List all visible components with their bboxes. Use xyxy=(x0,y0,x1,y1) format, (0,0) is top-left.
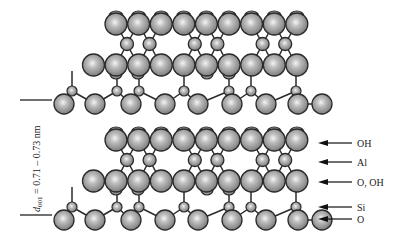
arrow-icon xyxy=(318,140,328,146)
layer-1 xyxy=(54,11,332,114)
label-o-oh: O, OH xyxy=(318,177,384,188)
arrow-icon xyxy=(318,179,328,185)
svg-text:Al: Al xyxy=(357,157,367,168)
svg-text:Si: Si xyxy=(357,202,366,213)
oxygen-hydroxyl-spheres xyxy=(54,129,332,230)
svg-text:O, OH: O, OH xyxy=(357,177,384,188)
layer-2 xyxy=(54,127,332,230)
arrow-icon xyxy=(318,204,328,210)
label-al: Al xyxy=(318,157,367,168)
layers xyxy=(54,11,332,230)
oxygen-hydroxyl-spheres xyxy=(54,13,332,114)
d-spacing-indicator: d001 = 0.71 – 0.73 nm xyxy=(20,100,52,215)
arrow-icon xyxy=(318,159,328,165)
d-spacing-label: d001 = 0.71 – 0.73 nm xyxy=(31,125,44,212)
svg-text:OH: OH xyxy=(357,138,371,149)
svg-text:O: O xyxy=(357,214,364,225)
label-oh: OH xyxy=(318,138,371,149)
kaolinite-structure-diagram: d001 = 0.71 – 0.73 nm OHAlO, OHSiO xyxy=(0,0,411,242)
